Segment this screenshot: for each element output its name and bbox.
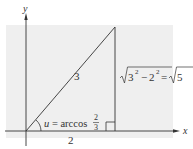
x-axis-arrow-icon — [173, 129, 180, 132]
y-axis-arrow-icon — [24, 13, 27, 20]
shaded-background — [6, 25, 173, 138]
angle-fraction-denominator: 3 — [94, 123, 98, 132]
angle-fraction-numerator: 2 — [94, 113, 98, 122]
right-triangle-diagram: y x 3 2 u = arccos 2 3 3 2 − 2 2 = 5 — [0, 0, 193, 149]
svg-text:2: 2 — [149, 71, 155, 83]
svg-text:2: 2 — [135, 68, 139, 76]
x-axis-label: x — [182, 125, 188, 136]
svg-text:=: = — [161, 71, 167, 83]
svg-text:5: 5 — [177, 71, 183, 83]
angle-label: u = arccos — [44, 118, 87, 129]
svg-text:3: 3 — [128, 71, 134, 83]
svg-text:−: − — [141, 71, 147, 83]
hypotenuse-label: 3 — [74, 70, 80, 82]
y-axis-label: y — [22, 3, 28, 14]
base-label: 2 — [68, 134, 74, 146]
svg-text:2: 2 — [156, 68, 160, 76]
